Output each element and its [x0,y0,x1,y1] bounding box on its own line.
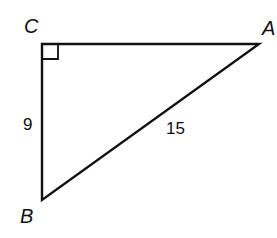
right-angle-marker [42,44,58,59]
triangle-figure [0,0,277,238]
vertex-label-c: C [24,16,38,36]
side-label-ab: 15 [166,120,185,137]
vertex-label-a: A [262,18,275,38]
side-label-cb: 9 [23,116,32,133]
triangle-abc [42,44,259,200]
vertex-label-b: B [20,206,33,226]
